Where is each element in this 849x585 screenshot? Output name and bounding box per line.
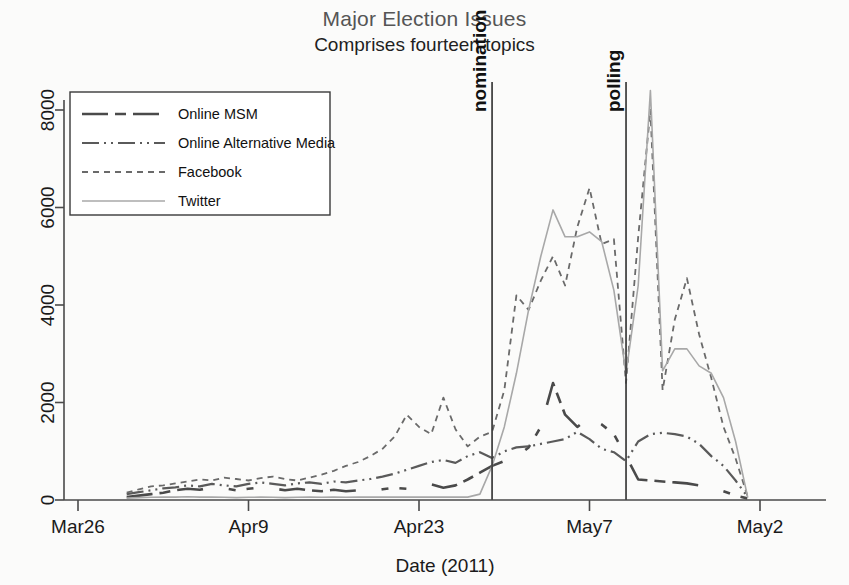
y-tick-label: 4000 [37, 284, 58, 326]
chart-legend: Online MSMOnline Alternative MediaFacebo… [70, 92, 336, 215]
x-tick-label: Apr9 [228, 516, 268, 537]
y-tick-label: 8000 [37, 89, 58, 131]
legend-label: Facebook [178, 164, 242, 180]
legend-label: Online Alternative Media [178, 135, 336, 151]
y-tick-label: 0 [37, 495, 58, 506]
series-line [127, 383, 748, 499]
x-tick-label: May2 [737, 516, 783, 537]
y-tick-label: 6000 [37, 186, 58, 228]
plot-area: nominationpolling 02000400060008000Mar26… [0, 0, 849, 585]
x-tick-label: May7 [566, 516, 612, 537]
y-tick-label: 2000 [37, 381, 58, 423]
annotation-label: polling [603, 50, 624, 112]
x-tick-label: Apr23 [394, 516, 445, 537]
x-axis-title: Date (2011) [396, 555, 495, 576]
legend-label: Twitter [178, 193, 221, 209]
x-tick-label: Mar26 [51, 516, 105, 537]
chart-figure: Major Election Issues Comprises fourteen… [0, 0, 849, 585]
legend-label: Online MSM [178, 106, 258, 122]
annotation-label: nomination [469, 10, 490, 112]
